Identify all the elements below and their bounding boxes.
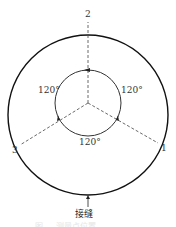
point-label-3: 3 [12,146,18,155]
arrow-mark-top [84,68,90,72]
angle-label-bottom: 120° [79,138,101,147]
point-label-1: 1 [161,144,167,153]
seam-label: 接缝 [75,207,93,220]
angle-label-left: 120° [38,86,60,95]
outer-circle [8,35,168,195]
figure-caption: 图 ... 测量点位置 [35,220,96,227]
angle-label-right: 120° [121,86,143,95]
circle-diagram [0,0,176,227]
point-label-2: 2 [85,10,91,19]
dashed-line-3 [20,103,88,145]
